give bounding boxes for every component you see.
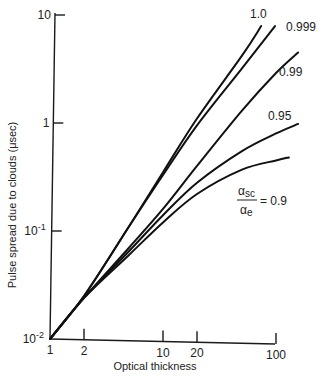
x-tick-label: 1 — [47, 343, 54, 357]
curve-label: 0.95 — [268, 109, 292, 123]
curve-labels: 1.00.9990.990.95 — [250, 7, 316, 123]
y-tick-label: 10-2 — [23, 330, 44, 346]
param-numerator: αsc — [238, 184, 255, 199]
x-tick-label: 2 — [81, 344, 88, 358]
y-tick-label: 10 — [38, 8, 52, 22]
x-tick-label: 10 — [156, 346, 170, 360]
curve-label: 0.999 — [286, 20, 316, 34]
param-denominator: αe — [240, 203, 253, 218]
y-axis-title: Pulse spread due to clouds (μsec) — [6, 122, 18, 289]
y-axis — [50, 13, 55, 339]
curves — [50, 26, 298, 339]
curve-label: 0.99 — [279, 65, 303, 79]
y-tick-label: 1 — [43, 116, 50, 130]
y-ticks: 10-210-1110 — [23, 8, 65, 346]
x-tick-label: 20 — [190, 346, 204, 360]
x-ticks: 121020100 — [47, 329, 287, 362]
curve-1-0 — [50, 26, 261, 339]
x-tick-label: 100 — [266, 348, 286, 362]
curve-0-999 — [50, 26, 275, 339]
axes — [50, 13, 275, 344]
curve-label: 1.0 — [250, 7, 267, 21]
chart-canvas: 10-210-1110 121020100 1.00.9990.990.95 O… — [0, 0, 323, 378]
x-axis-title: Optical thickness — [113, 360, 197, 372]
param-value: = 0.9 — [260, 194, 287, 208]
curve-0-9 — [50, 157, 289, 339]
y-tick-label: 10-1 — [24, 222, 45, 238]
parameter-label: αsc αe = 0.9 — [237, 184, 287, 218]
